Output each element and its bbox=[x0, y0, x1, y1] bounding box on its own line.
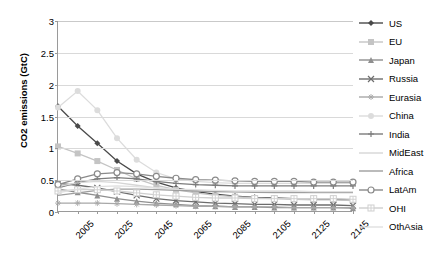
legend-marker-open-circle-icon bbox=[358, 184, 384, 196]
y-tick-label: 1.5 bbox=[41, 111, 54, 122]
data-point bbox=[94, 171, 100, 177]
data-point bbox=[173, 193, 179, 199]
data-point bbox=[271, 196, 277, 202]
data-point bbox=[75, 150, 81, 156]
x-tick-mark bbox=[97, 211, 98, 214]
legend-label: Eurasia bbox=[389, 92, 421, 103]
data-point bbox=[134, 157, 140, 163]
y-tick-mark bbox=[55, 148, 58, 149]
x-tick-label: 2025 bbox=[113, 218, 136, 241]
y-tick-label: 2.5 bbox=[41, 47, 54, 58]
data-point bbox=[55, 105, 61, 111]
x-tick-mark bbox=[294, 211, 295, 214]
x-tick-mark bbox=[274, 211, 275, 214]
legend-marker-diamond-icon bbox=[358, 17, 384, 29]
data-point bbox=[232, 195, 238, 201]
data-point bbox=[134, 201, 140, 207]
data-point bbox=[55, 182, 61, 188]
legend-label: LatAm bbox=[389, 184, 416, 195]
legend-label: EU bbox=[389, 36, 402, 47]
data-point bbox=[193, 194, 199, 200]
legend-marker-circle-icon bbox=[358, 110, 384, 122]
data-point bbox=[252, 196, 258, 202]
legend-marker-square-icon bbox=[358, 36, 384, 48]
y-tick-mark bbox=[55, 53, 58, 54]
legend-marker-triangle-icon bbox=[358, 54, 384, 66]
legend-label: OthAsia bbox=[389, 221, 423, 232]
legend-label: US bbox=[389, 18, 402, 29]
x-tick-mark bbox=[196, 211, 197, 214]
legend-marker-plus-icon bbox=[358, 128, 384, 140]
x-tick-mark bbox=[176, 211, 177, 214]
gridline bbox=[58, 117, 353, 118]
legend-item-eurasia[interactable]: Eurasia bbox=[358, 88, 423, 107]
legend-label: OHI bbox=[389, 203, 406, 214]
data-point bbox=[94, 200, 100, 206]
x-tick-label: 2045 bbox=[152, 218, 175, 241]
legend-label: MidEast bbox=[389, 147, 423, 158]
data-point bbox=[311, 196, 317, 202]
y-tick-label: 0.5 bbox=[41, 175, 54, 186]
data-point bbox=[134, 171, 140, 177]
data-point bbox=[114, 135, 120, 141]
y-tick-mark bbox=[55, 85, 58, 86]
data-point bbox=[291, 196, 297, 202]
data-point bbox=[75, 200, 81, 206]
legend-marker-star-icon bbox=[358, 91, 384, 103]
gridline bbox=[58, 148, 353, 149]
legend-item-russia[interactable]: Russia bbox=[358, 70, 423, 89]
legend-label: Russia bbox=[389, 73, 418, 84]
legend-item-eu[interactable]: EU bbox=[358, 33, 423, 52]
data-point bbox=[114, 170, 120, 176]
legend-item-china[interactable]: China bbox=[358, 107, 423, 126]
legend-item-ohi[interactable]: OHI bbox=[358, 199, 423, 218]
legend-item-othasia[interactable]: OthAsia bbox=[358, 218, 423, 237]
chart-legend: USEUJapanRussiaEurasiaChinaIndiaMidEastA… bbox=[358, 14, 423, 236]
legend-label: India bbox=[389, 129, 410, 140]
x-tick-label: 2105 bbox=[270, 218, 293, 241]
legend-marker-none-icon bbox=[358, 165, 384, 177]
x-tick-mark bbox=[314, 211, 315, 214]
x-tick-label: 2085 bbox=[231, 218, 254, 241]
legend-item-us[interactable]: US bbox=[358, 14, 423, 33]
legend-item-africa[interactable]: Africa bbox=[358, 162, 423, 181]
legend-label: China bbox=[389, 110, 414, 121]
legend-label: Japan bbox=[389, 55, 415, 66]
data-point bbox=[94, 107, 100, 113]
gridline bbox=[58, 21, 353, 22]
gridline bbox=[58, 180, 353, 181]
legend-item-mideast[interactable]: MidEast bbox=[358, 144, 423, 163]
legend-marker-x-icon bbox=[358, 73, 384, 85]
x-tick-mark bbox=[235, 211, 236, 214]
x-tick-label: 2125 bbox=[309, 218, 332, 241]
data-point bbox=[153, 192, 159, 198]
y-tick-mark bbox=[55, 21, 58, 22]
x-tick-mark bbox=[78, 211, 79, 214]
x-tick-mark bbox=[137, 211, 138, 214]
data-point bbox=[350, 196, 356, 202]
x-tick-mark bbox=[353, 211, 354, 214]
data-point bbox=[173, 203, 179, 209]
y-axis-title: CO2 emissions (GtC) bbox=[18, 31, 29, 171]
x-tick-mark bbox=[215, 211, 216, 214]
legend-label: Africa bbox=[389, 166, 413, 177]
legend-marker-none-icon bbox=[358, 147, 384, 159]
co2-emissions-chart: CO2 emissions (GtC) 00.511.522.532005202… bbox=[0, 0, 444, 270]
legend-item-japan[interactable]: Japan bbox=[358, 51, 423, 70]
x-tick-mark bbox=[58, 211, 59, 214]
data-point bbox=[232, 204, 238, 210]
legend-item-latam[interactable]: LatAm bbox=[358, 181, 423, 200]
legend-item-india[interactable]: India bbox=[358, 125, 423, 144]
data-point bbox=[212, 195, 218, 201]
data-point bbox=[94, 187, 100, 193]
x-tick-mark bbox=[255, 211, 256, 214]
y-tick-label: 1 bbox=[49, 143, 54, 154]
gridline bbox=[58, 53, 353, 54]
x-tick-mark bbox=[333, 211, 334, 214]
plot-area: 00.511.522.53200520252045206520852105212… bbox=[57, 21, 352, 212]
series-line bbox=[58, 91, 353, 183]
data-point bbox=[330, 196, 336, 202]
x-tick-mark bbox=[156, 211, 157, 214]
y-tick-label: 3 bbox=[49, 16, 54, 27]
y-tick-label: 0 bbox=[49, 207, 54, 218]
